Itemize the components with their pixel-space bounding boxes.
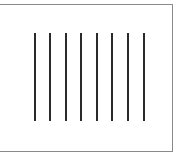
vertical-line-3 xyxy=(65,33,67,121)
vertical-line-5 xyxy=(96,33,98,121)
vertical-line-6 xyxy=(111,33,113,121)
diagram-frame xyxy=(0,4,173,152)
vertical-line-4 xyxy=(80,33,82,121)
vertical-line-1 xyxy=(34,33,36,121)
vertical-line-8 xyxy=(143,33,145,121)
vertical-line-7 xyxy=(127,33,129,121)
vertical-line-2 xyxy=(49,33,51,121)
